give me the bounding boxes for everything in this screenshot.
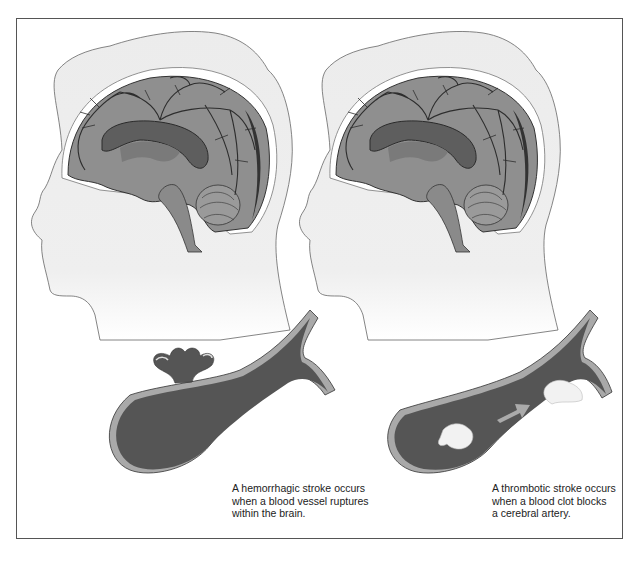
right-head-brain-illustration: [299, 31, 560, 340]
caption-line: a cerebral artery.: [492, 507, 616, 520]
left-head-brain-illustration: [31, 31, 292, 340]
thrombotic-caption: A thrombotic stroke occurs when a blood …: [492, 482, 616, 520]
caption-line: A hemorrhagic stroke occurs: [232, 482, 369, 495]
stroke-illustration: [0, 0, 640, 563]
caption-line: A thrombotic stroke occurs: [492, 482, 616, 495]
caption-line: when a blood clot blocks: [492, 495, 616, 508]
caption-line: when a blood vessel ruptures: [232, 495, 369, 508]
caption-line: within the brain.: [232, 507, 369, 520]
hemorrhagic-caption: A hemorrhagic stroke occurs when a blood…: [232, 482, 369, 520]
